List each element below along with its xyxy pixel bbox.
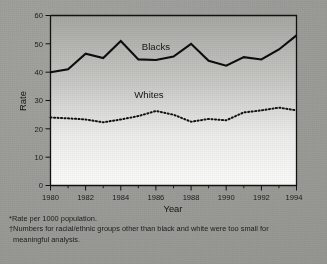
y-tick-label: 10 bbox=[35, 153, 43, 162]
series-label-blacks: Blacks bbox=[142, 41, 170, 52]
footnote-rate: *Rate per 1000 population. bbox=[9, 214, 319, 224]
x-axis-tick-labels: 1980 1982 1984 1986 1988 1990 1992 1994 bbox=[42, 193, 302, 202]
x-tick-label: 1980 bbox=[42, 193, 59, 202]
y-tick-label: 20 bbox=[35, 125, 43, 134]
footnote-groups: †Numbers for racial/ethnic groups other … bbox=[9, 224, 319, 234]
y-tick-label: 30 bbox=[35, 96, 43, 105]
y-axis-tick-labels: 0 10 20 30 40 50 60 bbox=[35, 11, 43, 190]
figure-panel: 0 10 20 30 40 50 60 bbox=[0, 0, 327, 264]
x-axis-ticks bbox=[51, 186, 297, 191]
plot-background bbox=[51, 16, 297, 186]
y-tick-label: 40 bbox=[35, 68, 43, 77]
x-tick-label: 1992 bbox=[253, 193, 270, 202]
x-tick-label: 1988 bbox=[183, 193, 200, 202]
series-label-whites: Whites bbox=[134, 89, 164, 100]
y-axis-ticks bbox=[46, 16, 51, 186]
y-tick-label: 50 bbox=[35, 40, 43, 49]
x-axis-title: Year bbox=[164, 203, 183, 214]
x-tick-label: 1982 bbox=[77, 193, 94, 202]
x-tick-label: 1984 bbox=[112, 193, 129, 202]
footnotes-block: *Rate per 1000 population. †Numbers for … bbox=[9, 214, 319, 245]
y-axis-title: Rate bbox=[17, 91, 28, 111]
y-tick-label: 0 bbox=[39, 181, 43, 190]
x-tick-label: 1986 bbox=[147, 193, 164, 202]
y-tick-label: 60 bbox=[35, 11, 43, 20]
x-tick-label: 1994 bbox=[286, 193, 303, 202]
x-tick-label: 1990 bbox=[218, 193, 235, 202]
footnote-groups-cont: meaningful analysis. bbox=[9, 235, 319, 245]
